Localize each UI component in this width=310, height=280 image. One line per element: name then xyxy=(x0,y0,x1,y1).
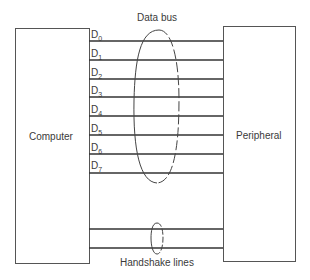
line-index: 5 xyxy=(98,129,102,136)
data-line-label-d4: D4 xyxy=(91,104,102,117)
line-index: 6 xyxy=(98,148,102,155)
handshake-label: Handshake lines xyxy=(120,257,194,268)
data-line-label-d2: D2 xyxy=(91,67,102,80)
data-line-label-d5: D5 xyxy=(91,123,102,136)
line-index: 3 xyxy=(98,91,102,98)
computer-box xyxy=(16,29,90,264)
computer-label: Computer xyxy=(29,131,73,142)
peripheral-label: Peripheral xyxy=(236,130,282,141)
line-index: 7 xyxy=(98,166,102,173)
data-bus-lines xyxy=(89,41,223,173)
handshake-ellipse xyxy=(151,223,163,254)
data-bus-ellipse xyxy=(134,30,179,183)
line-index: 2 xyxy=(98,73,102,80)
data-line-label-d1: D1 xyxy=(91,48,102,61)
data-line-label-d3: D3 xyxy=(91,85,102,98)
handshake-lines xyxy=(89,229,223,248)
data-line-label-d7: D7 xyxy=(91,160,102,173)
data-line-label-d0: D0 xyxy=(91,29,102,42)
line-index: 0 xyxy=(98,35,102,42)
data-line-label-d6: D6 xyxy=(91,142,102,155)
peripheral-box xyxy=(224,27,296,262)
line-index: 4 xyxy=(98,110,102,117)
data-bus-label: Data bus xyxy=(137,12,177,23)
line-index: 1 xyxy=(98,54,102,61)
